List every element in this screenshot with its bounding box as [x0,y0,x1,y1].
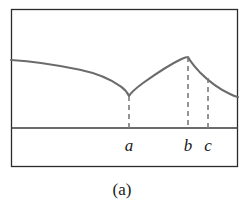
axis-label-a: a [117,137,141,154]
figure-container: a b c (a) [0,0,244,212]
figure-caption: (a) [0,181,244,198]
axis-label-c: c [196,137,220,154]
